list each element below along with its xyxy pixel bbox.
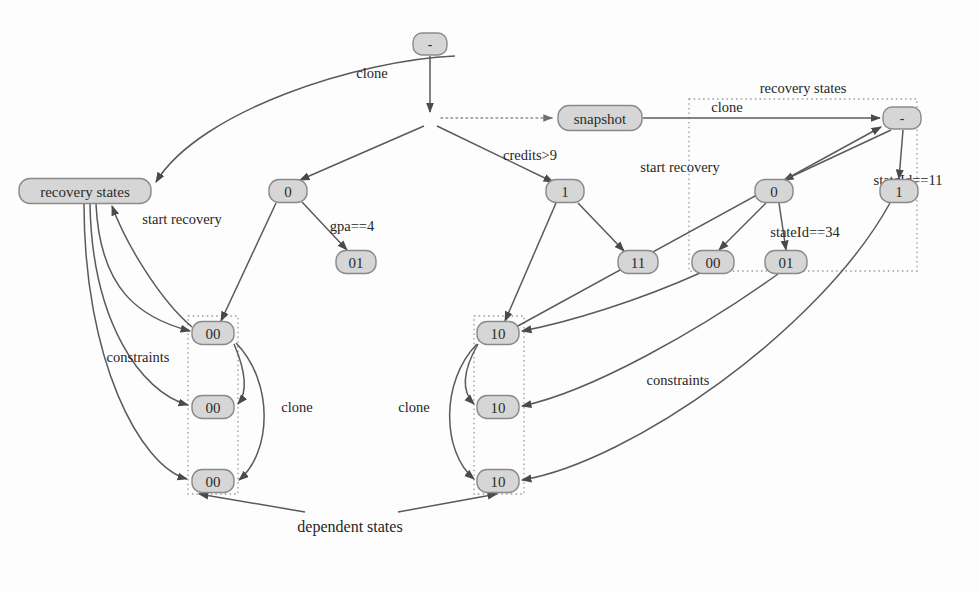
edge-label-clone-right: clone [711, 99, 742, 115]
node-left-01[interactable]: 01 [336, 251, 376, 274]
node-rec-root-label: - [900, 111, 905, 126]
node-dep10-c[interactable]: 10 [477, 470, 519, 493]
state-diagram-svg: clone credits>9 clone stateId==11 start … [0, 0, 978, 591]
edge-recovery-states-to-dep00-c [84, 204, 187, 479]
edge-label-state-id-34: stateId==34 [770, 224, 840, 240]
node-dep10-a-label: 10 [491, 326, 506, 342]
node-rec-root[interactable]: - [883, 107, 921, 129]
group-labels: recovery states [760, 80, 847, 96]
node-recovery-states-left[interactable]: recovery states [19, 179, 151, 204]
nodes: - snapshot recovery states 0 01 1 [19, 33, 921, 493]
edge-rec-00-to-dep10-a [522, 273, 700, 331]
node-rec-01[interactable]: 01 [765, 251, 807, 274]
node-mid-1-label: 1 [561, 184, 569, 200]
edges [84, 56, 903, 512]
node-dep00-b-label: 00 [206, 400, 221, 416]
edge-label-clone-top: clone [356, 65, 387, 81]
edge-mid-1-to-dep10-a [505, 203, 556, 321]
node-dep10-c-label: 10 [491, 474, 506, 490]
edge-label-clone-right-column: clone [398, 399, 429, 415]
node-dep10-b-label: 10 [491, 400, 506, 416]
node-dep00-c-label: 00 [206, 474, 221, 490]
edge-label-dependent-states: dependent states [297, 518, 402, 536]
node-dep10-b[interactable]: 10 [477, 396, 519, 419]
node-mid-11-label: 11 [631, 255, 645, 271]
node-mid-1[interactable]: 1 [546, 180, 584, 203]
edge-root-to-recovery-states-left [156, 56, 455, 182]
edge-rec-1-to-dep10-c [522, 203, 890, 480]
node-rec-01-label: 01 [779, 255, 794, 271]
edge-label-start-recovery-left: start recovery [142, 211, 222, 227]
edge-label-start-recovery-right: start recovery [640, 159, 720, 175]
node-rec-0-label: 0 [770, 184, 778, 200]
edge-label-constraints-right: constraints [647, 372, 710, 388]
edge-dep10-a-to-dep10-c [450, 344, 477, 479]
node-rec-00-label: 00 [706, 255, 721, 271]
node-dep00-b[interactable]: 00 [192, 396, 234, 419]
edge-dependent-states-to-left-box [199, 494, 305, 512]
edge-left-0-to-dep00-a [221, 203, 276, 321]
node-dep00-c[interactable]: 00 [192, 470, 234, 493]
edge-label-gpa-eq-4: gpa==4 [330, 218, 375, 234]
node-dep00-a-label: 00 [206, 326, 221, 342]
edge-dep10-a-to-dep10-b [465, 344, 478, 404]
edge-dep00-a-to-dep00-b [234, 344, 244, 404]
node-rec-00[interactable]: 00 [692, 251, 734, 274]
edge-labels: clone credits>9 clone stateId==11 start … [107, 65, 943, 536]
node-left-0[interactable]: 0 [269, 180, 307, 203]
edge-recovery-states-to-dep00-b [90, 204, 188, 405]
edge-dep00-a-to-dep00-c [236, 343, 264, 480]
node-recovery-states-left-label: recovery states [40, 184, 130, 200]
node-snapshot[interactable]: snapshot [558, 106, 642, 131]
node-root-label: - [428, 37, 433, 52]
group-label-recovery-states: recovery states [760, 80, 847, 96]
node-dep10-a[interactable]: 10 [477, 322, 519, 345]
node-rec-0[interactable]: 0 [755, 180, 793, 203]
node-left-0-label: 0 [284, 184, 292, 200]
edge-branch-to-left-0 [300, 126, 424, 180]
node-root[interactable]: - [413, 33, 447, 55]
edge-label-constraints-left: constraints [107, 349, 170, 365]
node-left-01-label: 01 [349, 255, 364, 271]
node-mid-11[interactable]: 11 [618, 251, 658, 274]
edge-dependent-states-to-right-box [398, 494, 497, 512]
node-dep00-a[interactable]: 00 [192, 322, 234, 345]
edge-label-credits-gt-9: credits>9 [503, 147, 557, 163]
edge-mid-1-to-11 [578, 203, 624, 251]
node-rec-1-label: 1 [895, 184, 903, 200]
node-rec-1[interactable]: 1 [880, 180, 918, 203]
edge-rec-0-to-rec-00 [719, 203, 766, 250]
edge-label-clone-left-column: clone [281, 399, 312, 415]
node-snapshot-label: snapshot [574, 111, 627, 127]
diagram-canvas: clone credits>9 clone stateId==11 start … [0, 0, 978, 591]
